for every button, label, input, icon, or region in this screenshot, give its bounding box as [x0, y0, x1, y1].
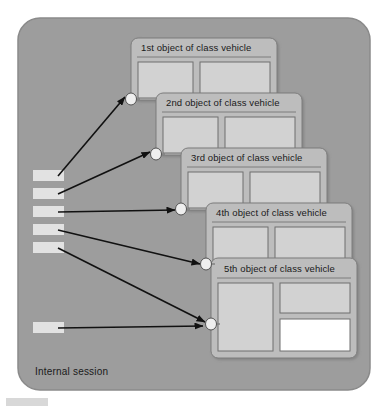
scan-artifact [6, 398, 48, 406]
connection-port-icon[interactable] [176, 203, 187, 215]
object-card-title: 1st object of class vehicle [141, 42, 251, 53]
object-card-title: 2nd object of class vehicle [166, 97, 280, 108]
connection-port-icon[interactable] [201, 258, 212, 270]
connection-port-icon[interactable] [151, 148, 162, 160]
object-card-panel[interactable] [218, 283, 273, 351]
object-card-panel[interactable] [280, 319, 350, 351]
reference-slot[interactable] [33, 242, 64, 253]
session-label: Internal session [35, 366, 108, 377]
object-card-title: 3rd object of class vehicle [191, 152, 302, 163]
connection-port-icon[interactable] [126, 93, 137, 105]
object-card-title: 5th object of class vehicle [224, 263, 335, 274]
reference-slot[interactable] [33, 224, 64, 235]
connection-port-icon[interactable] [206, 318, 217, 330]
object-card-title: 4th object of class vehicle [216, 207, 327, 218]
object-card-panel[interactable] [280, 283, 350, 313]
diagram-canvas: 1st object of class vehicle2nd object of… [0, 0, 388, 411]
diagram-svg [0, 0, 388, 411]
